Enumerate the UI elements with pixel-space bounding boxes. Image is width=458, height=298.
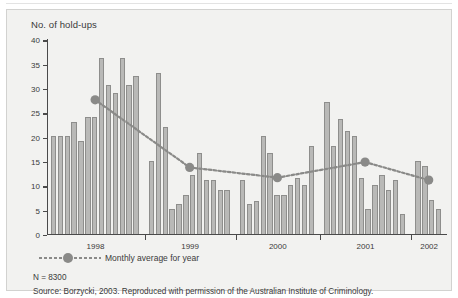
- bar-1998-1: [51, 136, 56, 233]
- bar-2000-6: [274, 195, 279, 234]
- bar-2001-5: [352, 136, 357, 233]
- top-hairline-strip: [0, 0, 458, 8]
- bar-1999-5: [176, 204, 181, 233]
- bar-1999-8: [197, 153, 202, 233]
- bar-2000-7: [281, 195, 286, 234]
- bar-2001-7: [365, 209, 370, 233]
- x-axis-line: [47, 234, 447, 235]
- y-tick-mark: [43, 211, 47, 212]
- bar-1998-5: [78, 141, 83, 233]
- bar-1998-4: [71, 122, 76, 234]
- bar-2001-8: [372, 185, 377, 234]
- x-tick-boundary-2: [236, 235, 237, 240]
- bar-1998-2: [58, 136, 63, 233]
- plot-area: 4035302520151050 19981999200020012002: [47, 39, 447, 235]
- x-axis-label-1998: 1998: [87, 242, 105, 251]
- y-tick-mark: [43, 113, 47, 114]
- x-axis-label-2000: 2000: [269, 242, 287, 251]
- bar-2001-9: [379, 175, 384, 233]
- bar-2000-3: [254, 201, 259, 234]
- x-tick-boundary-3: [320, 235, 321, 240]
- x-tick-boundary-4: [411, 235, 412, 240]
- legend-circle-marker-icon: [63, 253, 73, 263]
- bar-1998-9: [106, 85, 111, 233]
- x-axis-label-2002: 2002: [420, 242, 438, 251]
- bar-2000-1: [240, 180, 245, 234]
- y-tick-mark: [43, 235, 47, 236]
- bar-2000-2: [247, 204, 252, 233]
- chart-panel: No. of hold-ups 4035302520151050 1998199…: [6, 9, 452, 291]
- y-tick-mark: [43, 162, 47, 163]
- y-tick-mark: [43, 89, 47, 90]
- y-tick-label: 15: [31, 158, 40, 167]
- x-axis-label-2001: 2001: [357, 242, 375, 251]
- bar-1999-4: [169, 209, 174, 233]
- bar-1999-6: [183, 195, 188, 234]
- legend-line-marker-icon: [39, 252, 101, 263]
- y-tick-label: 35: [31, 60, 40, 69]
- bar-2001-10: [386, 190, 391, 234]
- y-tick-label: 5: [36, 206, 40, 215]
- x-axis-label-1999: 1999: [181, 242, 199, 251]
- bar-1999-2: [156, 73, 161, 234]
- bar-2001-1: [324, 102, 329, 233]
- bar-1999-1: [149, 161, 154, 234]
- y-axis-title: No. of hold-ups: [31, 19, 97, 30]
- bar-2000-9: [295, 178, 300, 234]
- bar-2001-6: [359, 178, 364, 234]
- y-tick-mark: [43, 138, 47, 139]
- bar-1999-7: [190, 175, 195, 233]
- x-tick-boundary-1: [145, 235, 146, 240]
- bar-2001-11: [393, 180, 398, 234]
- bar-2001-3: [338, 119, 343, 233]
- bar-1999-9: [204, 180, 209, 234]
- bar-1998-10: [113, 93, 118, 234]
- y-tick-label: 20: [31, 133, 40, 142]
- bar-1998-12: [126, 85, 131, 233]
- bar-1999-3: [163, 127, 168, 234]
- bar-2000-8: [288, 185, 293, 234]
- source-note: Source: Borzycki, 2003. Reproduced with …: [33, 287, 373, 296]
- figure-root: No. of hold-ups 4035302520151050 1998199…: [0, 0, 458, 298]
- y-tick-label: 30: [31, 85, 40, 94]
- legend-label: Monthly average for year: [105, 253, 199, 263]
- bar-2002-4: [436, 209, 441, 233]
- bar-2001-2: [331, 146, 336, 234]
- y-tick-mark: [43, 40, 47, 41]
- y-tick-label: 10: [31, 182, 40, 191]
- y-tick-mark: [43, 186, 47, 187]
- bar-2000-4: [261, 136, 266, 233]
- sample-size-note: N = 8300: [33, 273, 66, 282]
- legend: Monthly average for year: [39, 252, 199, 263]
- bar-2002-3: [429, 200, 434, 234]
- bar-1998-11: [120, 58, 125, 233]
- bar-1998-8: [99, 58, 104, 233]
- bar-2001-4: [345, 131, 350, 233]
- bar-2000-11: [309, 146, 314, 234]
- bar-2001-12: [400, 214, 405, 233]
- bar-2002-2: [422, 166, 427, 234]
- bar-2000-5: [267, 153, 272, 233]
- bar-1998-3: [65, 136, 70, 233]
- bar-1999-11: [218, 190, 223, 234]
- bar-1999-10: [211, 180, 216, 234]
- bar-1998-13: [133, 76, 138, 234]
- bar-group: [48, 39, 447, 234]
- y-tick-label: 40: [31, 36, 40, 45]
- y-tick-label: 0: [36, 231, 40, 240]
- bar-2000-10: [302, 185, 307, 234]
- bar-1999-12: [224, 190, 229, 234]
- hairline-divider: [6, 3, 452, 4]
- bar-2002-1: [415, 161, 420, 234]
- y-tick-mark: [43, 65, 47, 66]
- bar-1998-7: [92, 117, 97, 234]
- bar-1998-6: [85, 117, 90, 234]
- y-tick-label: 25: [31, 109, 40, 118]
